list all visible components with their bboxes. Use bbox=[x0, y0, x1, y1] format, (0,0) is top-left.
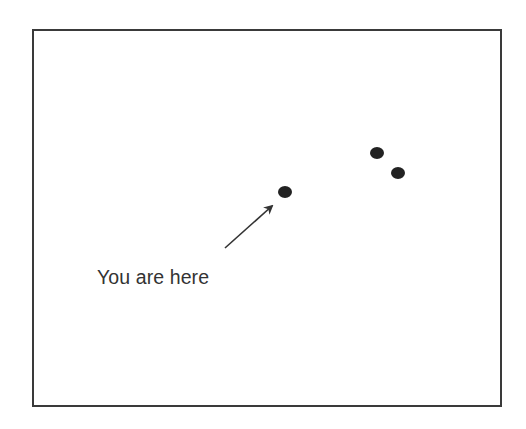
location-marker bbox=[391, 167, 405, 179]
arrow-icon bbox=[225, 206, 272, 248]
location-marker bbox=[370, 147, 384, 159]
you-are-here-marker bbox=[278, 186, 292, 198]
diagram-canvas bbox=[0, 0, 526, 429]
you-are-here-label: You are here bbox=[97, 266, 209, 289]
